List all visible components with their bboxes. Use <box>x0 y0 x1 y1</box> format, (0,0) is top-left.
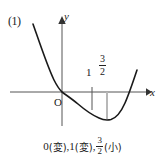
x-tick-label-1: 1 <box>86 66 92 78</box>
caption-kind-1: (変) <box>49 139 67 154</box>
fraction-denominator: 2 <box>99 67 106 78</box>
y-axis-label: y <box>64 10 69 22</box>
caption-fraction-numerator: 3 <box>96 136 103 145</box>
graph-figure: (1) y x O 1 3 2 0(変), 1(変), 3 <box>0 0 165 166</box>
x-tick-label-three-halves: 3 2 <box>99 54 106 77</box>
function-curve <box>33 24 137 120</box>
fraction-three-halves: 3 2 <box>99 54 106 77</box>
caption-fraction-three-halves: 3 2 <box>96 136 103 157</box>
caption-fraction-denominator: 2 <box>96 147 103 156</box>
fraction-numerator: 3 <box>99 54 106 65</box>
coordinate-plot <box>0 0 165 132</box>
caption-kind-3: (小) <box>104 139 122 154</box>
origin-label: O <box>54 96 62 108</box>
answer-caption: 0(変), 1(変), 3 2 (小) <box>0 136 165 157</box>
caption-kind-2: (変) <box>75 139 93 154</box>
caption-separator-2: , <box>93 140 96 152</box>
x-axis-label: x <box>150 86 155 98</box>
plot-svg <box>0 0 165 132</box>
